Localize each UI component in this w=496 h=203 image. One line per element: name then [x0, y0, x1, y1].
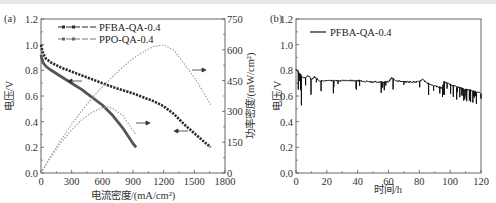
panel-b-xlabel: 时间/h [374, 183, 403, 195]
panel-a-ylabel: 电压/V [3, 80, 15, 111]
panel-a-legend: PFBA-QA-0.4 PPO-QA-0.4 [58, 22, 161, 45]
x-tick-label: 0 [293, 176, 298, 187]
y-tick-label: 1.2 [25, 14, 38, 25]
y-tick-label: 0.2 [280, 142, 293, 153]
panel-b-ylabel: 电压/V [271, 80, 283, 111]
y2-tick-label: 750 [227, 14, 243, 25]
y2-tick-label: 150 [227, 137, 243, 148]
x-tick-label: 1200 [153, 176, 174, 187]
x-tick-label: 40 [352, 176, 363, 187]
y-tick-label: 0.2 [25, 142, 38, 153]
panel-a-y2label: 功率密度/(mW/cm²) [244, 52, 257, 139]
legend-pfba: PFBA-QA-0.4 [99, 22, 161, 33]
series-line [296, 69, 481, 105]
y-tick-label: 0.0 [25, 168, 38, 179]
y-tick-label: 0.0 [280, 168, 293, 179]
x-tick-label: 0 [38, 176, 43, 187]
y-tick-label: 1.0 [280, 40, 293, 51]
legend-pfba-b: PFBA-QA-0.4 [330, 27, 392, 38]
y-tick-label: 0.8 [25, 65, 38, 76]
panel-b-curves [296, 69, 481, 105]
y-tick-label: 0.4 [280, 117, 294, 128]
panel-a: (a) 0300600900120015001800 0.00.20.40.60… [3, 13, 257, 202]
y2-tick-label: 300 [227, 106, 243, 117]
y-tick-label: 1.0 [25, 40, 38, 51]
panel-a-label: (a) [4, 13, 16, 25]
figure-canvas: (a) 0300600900120015001800 0.00.20.40.60… [0, 0, 496, 203]
series-line [41, 45, 211, 173]
x-tick-label: 1500 [184, 176, 205, 187]
panel-b-legend: PFBA-QA-0.4 [310, 27, 392, 38]
y2-tick-label: 600 [227, 45, 243, 56]
y-tick-label: 0.6 [25, 91, 38, 102]
x-tick-label: 20 [322, 176, 333, 187]
y2-tick-label: 0 [227, 168, 232, 179]
x-tick-label: 600 [94, 176, 110, 187]
x-tick-label: 120 [473, 176, 489, 187]
x-tick-label: 1800 [215, 176, 236, 187]
series-line [41, 55, 136, 147]
panel-b: (b) 020406080100120 0.00.20.40.60.81.01.… [270, 13, 489, 195]
y-tick-label: 0.4 [25, 117, 39, 128]
y-tick-label: 1.2 [280, 14, 293, 25]
y2-tick-label: 450 [227, 76, 243, 87]
panel-a-xlabel: 电流密度/(mA/cm²) [91, 189, 176, 202]
legend-ppo: PPO-QA-0.4 [99, 34, 154, 45]
x-tick-label: 80 [414, 176, 425, 187]
x-tick-label: 100 [442, 176, 458, 187]
series-line [41, 107, 136, 173]
y-tick-label: 0.8 [280, 65, 293, 76]
panel-a-curves [41, 45, 211, 173]
x-tick-label: 900 [125, 176, 141, 187]
x-tick-label: 300 [64, 176, 80, 187]
